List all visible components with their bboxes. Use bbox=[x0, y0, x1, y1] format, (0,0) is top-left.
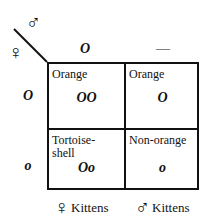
cell-genotype-o: o bbox=[126, 160, 199, 176]
cell-phenotype-tortoiseshell-line1: Tortoise- bbox=[52, 134, 95, 146]
footer-label: Kittens bbox=[71, 200, 109, 216]
footer-label: Kittens bbox=[152, 200, 190, 216]
footer-male-kittens: ♂ Kittens bbox=[135, 196, 190, 219]
cell-genotype-OO: OO bbox=[49, 90, 124, 106]
female-symbol: ♀ bbox=[8, 42, 23, 62]
male-symbol: ♂ bbox=[26, 12, 41, 32]
cell-phenotype-orange-OO: Orange bbox=[52, 68, 87, 80]
female-icon: ♀ bbox=[54, 196, 69, 219]
cell-genotype-Oo: Oo bbox=[49, 160, 124, 176]
cell-genotype-O: O bbox=[126, 90, 199, 106]
male-icon: ♂ bbox=[135, 196, 150, 219]
grid-divider-horizontal bbox=[49, 128, 197, 130]
cell-phenotype-orange-O: Orange bbox=[129, 68, 164, 80]
column-header-dash: — bbox=[148, 41, 178, 57]
punnett-grid: Orange OO Orange O Tortoise- shell Oo No… bbox=[47, 62, 199, 190]
row-header-o: o bbox=[18, 158, 38, 174]
footer-female-kittens: ♀ Kittens bbox=[54, 196, 109, 219]
row-header-O: O bbox=[18, 88, 38, 104]
cell-phenotype-tortoiseshell-line2: shell bbox=[52, 147, 75, 159]
column-header-O: O bbox=[70, 41, 100, 57]
cell-phenotype-non-orange: Non-orange bbox=[129, 134, 186, 146]
